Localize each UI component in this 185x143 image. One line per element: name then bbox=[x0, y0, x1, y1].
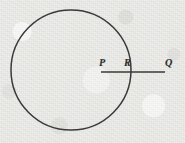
geometry-figure: P R Q bbox=[0, 0, 185, 143]
label-point-r: R bbox=[124, 58, 131, 68]
label-point-p: P bbox=[99, 58, 105, 68]
circle-shape bbox=[11, 10, 131, 130]
label-point-q: Q bbox=[165, 58, 172, 68]
figure-canvas bbox=[0, 0, 185, 143]
